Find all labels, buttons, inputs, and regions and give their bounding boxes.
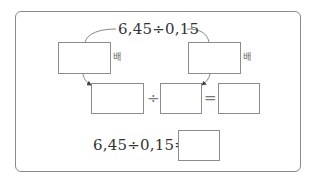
- quotient-input-box[interactable]: [218, 83, 260, 114]
- right-multiplier-input-box[interactable]: [188, 42, 241, 74]
- left-multiplier-label: 배: [113, 53, 121, 62]
- equals-operator: =: [204, 91, 217, 106]
- dividend-input-box[interactable]: [91, 83, 144, 114]
- left-multiplier-input-box[interactable]: [58, 42, 111, 74]
- bottom-expression: 6,45÷0,15=: [93, 138, 187, 153]
- right-multiplier-label: 배: [243, 53, 251, 62]
- divide-operator: ÷: [147, 91, 160, 106]
- final-answer-input-box[interactable]: [178, 130, 220, 161]
- top-expression: 6,45÷0,15: [118, 22, 199, 37]
- divisor-input-box[interactable]: [160, 83, 202, 114]
